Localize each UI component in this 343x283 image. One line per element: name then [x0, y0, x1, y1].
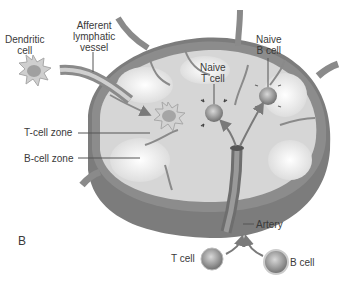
label-line: cell — [5, 45, 44, 56]
naive-b-cell-label: Naive B cell — [256, 34, 282, 56]
label-line: B cell — [256, 45, 282, 56]
panel-label: B — [18, 236, 26, 247]
naive-t-cell-label: Naive T cell — [200, 62, 226, 84]
b-cell-entry-arrow — [246, 238, 263, 256]
lymph-node-diagram — [0, 0, 343, 283]
artery-label: Artery — [256, 219, 283, 230]
b-cell-zone-label: B-cell zone — [24, 153, 73, 164]
label-line: Naive — [256, 34, 282, 45]
label-line: Afferent — [73, 20, 115, 31]
follicle-zone — [268, 140, 312, 180]
afferent-vessel-top — [118, 18, 148, 48]
b-cell-circulating — [264, 250, 288, 274]
t-cell-zone-label: T-cell zone — [24, 127, 72, 138]
label-line: vessel — [73, 42, 115, 53]
label-line: Naive — [200, 62, 226, 73]
b-cell-label: B cell — [290, 257, 314, 268]
t-cell-label: T cell — [171, 253, 195, 264]
t-cell-entry-arrow — [226, 238, 242, 254]
dendritic-cell-label: Dendritic cell — [5, 34, 44, 56]
label-line: lymphatic — [73, 31, 115, 42]
label-line: Dendritic — [5, 34, 44, 45]
afferent-vessel-right — [318, 64, 338, 76]
afferent-vessel-label: Afferent lymphatic vessel — [73, 20, 115, 53]
afferent-vessel-top — [238, 10, 240, 46]
t-cell-circulating — [201, 248, 223, 270]
label-line: T cell — [200, 73, 226, 84]
dendritic-cell-outside — [19, 55, 51, 86]
follicle-zone — [110, 138, 170, 182]
